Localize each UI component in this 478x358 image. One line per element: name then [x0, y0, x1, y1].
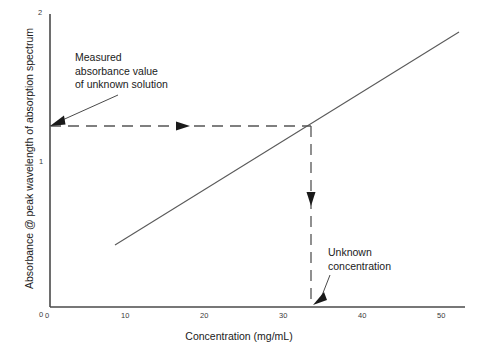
- absorbance-annotation-arrow-icon: [50, 116, 66, 127]
- x-tick-label-0: 0: [45, 311, 49, 320]
- absorbance-annotation-leader-line: [58, 95, 118, 122]
- measured-absorbance-line-1: Measured: [75, 51, 168, 65]
- unknown-concentration-line-1: Unknown: [328, 246, 391, 260]
- x-tick-label-40: 40: [358, 311, 367, 320]
- concentration-annotation-arrow-icon: [313, 292, 327, 305]
- horizontal-guide-arrow-icon: [176, 122, 190, 131]
- y-tick-label-2: 2: [38, 8, 42, 17]
- measured-absorbance-annotation: Measured absorbance value of unknown sol…: [75, 51, 168, 92]
- calibration-curve-figure: 2 1 0 0 10 20 30 40 50 Absorbance @ peak…: [0, 0, 478, 358]
- unknown-concentration-line-2: concentration: [328, 260, 391, 274]
- x-axis-title: Concentration (mg/mL): [0, 330, 478, 342]
- vertical-guide-arrow-icon: [307, 192, 316, 206]
- plot-area: [0, 0, 478, 358]
- x-tick-label-20: 20: [200, 311, 209, 320]
- measured-absorbance-line-3: of unknown solution: [75, 78, 168, 92]
- unknown-concentration-annotation: Unknown concentration: [328, 246, 391, 273]
- y-tick-label-1: 1: [39, 157, 43, 166]
- x-tick-label-10: 10: [121, 311, 130, 320]
- y-tick-label-0: 0: [39, 310, 43, 319]
- x-tick-label-50: 50: [437, 311, 446, 320]
- measured-absorbance-line-2: absorbance value: [75, 65, 168, 79]
- y-axis-title: Absorbance @ peak wavelength of absorpti…: [23, 59, 35, 289]
- x-tick-label-30: 30: [279, 311, 288, 320]
